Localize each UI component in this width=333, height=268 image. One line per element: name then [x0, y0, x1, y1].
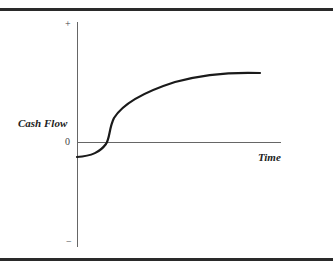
x-axis-label: Time [258, 151, 281, 163]
y-axis-label: Cash Flow [18, 117, 67, 129]
y-tick-zero: 0 [65, 136, 70, 147]
cash-flow-curve [77, 73, 260, 157]
y-tick-minus: − [66, 236, 72, 247]
y-tick-plus: + [65, 18, 71, 29]
cash-flow-chart [0, 0, 333, 268]
